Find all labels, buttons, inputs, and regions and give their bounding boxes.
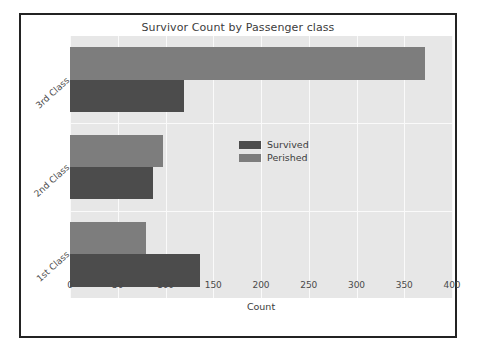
- gridline-horizontal: [70, 211, 452, 212]
- bar-perished-1st-class: [70, 222, 146, 254]
- legend-item-perished: Perished: [239, 151, 309, 164]
- y-tick-label: 2nd Class: [13, 162, 72, 216]
- x-tick-label: 100: [146, 280, 186, 290]
- legend-label-survived: Survived: [267, 139, 309, 150]
- bar-perished-3rd-class: [70, 47, 425, 79]
- bar-perished-2nd-class: [70, 135, 163, 167]
- x-tick-label: 200: [241, 280, 281, 290]
- y-tick-label: 1st Class: [13, 250, 72, 304]
- plot-area: [70, 36, 452, 298]
- x-tick-label: 250: [289, 280, 329, 290]
- x-tick-label: 150: [193, 280, 233, 290]
- x-axis-label: Count: [70, 301, 452, 312]
- x-tick-label: 300: [337, 280, 377, 290]
- figure-panel: Survivor Count by Passenger class 050100…: [19, 13, 457, 338]
- legend-swatch-perished: [239, 154, 261, 162]
- x-tick-label: 0: [50, 280, 90, 290]
- x-tick-label: 350: [384, 280, 424, 290]
- x-tick-label: 50: [98, 280, 138, 290]
- x-tick-label: 400: [432, 280, 472, 290]
- bar-survived-2nd-class: [70, 167, 153, 199]
- chart-legend: Survived Perished: [235, 136, 313, 166]
- legend-swatch-survived: [239, 141, 261, 149]
- gridline-vertical: [452, 36, 453, 298]
- chart-title: Survivor Count by Passenger class: [21, 21, 455, 34]
- legend-label-perished: Perished: [267, 152, 308, 163]
- bar-survived-3rd-class: [70, 80, 184, 112]
- y-tick-label: 3rd Class: [13, 75, 72, 129]
- gridline-horizontal: [70, 123, 452, 124]
- legend-item-survived: Survived: [239, 138, 309, 151]
